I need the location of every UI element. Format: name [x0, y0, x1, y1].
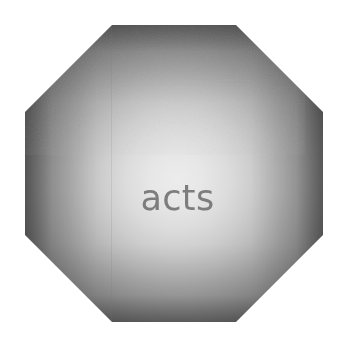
image-canvas: acts [0, 0, 346, 347]
octagon-scan-seam [111, 25, 112, 322]
octagon-edge-vignette [25, 25, 323, 322]
plate-label-text: acts [25, 178, 323, 218]
octagon-plate: acts [25, 25, 323, 322]
